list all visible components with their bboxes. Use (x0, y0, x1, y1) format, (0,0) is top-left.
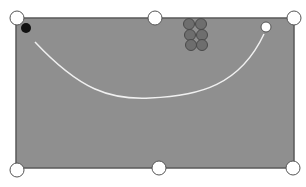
rack-ball (186, 40, 197, 51)
black-ball (21, 23, 31, 33)
billiards-table-diagram (0, 0, 306, 187)
pocket-top-left (10, 11, 24, 25)
rack-ball (197, 30, 208, 41)
rack-ball (184, 19, 195, 30)
pocket-bottom-right (286, 161, 300, 175)
pocket-top-right-pocket (287, 11, 301, 25)
table-felt (16, 18, 294, 168)
cue-ball (261, 22, 271, 32)
pocket-bottom-left (10, 163, 24, 177)
rack-ball (185, 30, 196, 41)
rack-ball (196, 19, 207, 30)
pocket-bottom-middle (152, 161, 166, 175)
pocket-top-middle (148, 11, 162, 25)
rack-ball (197, 40, 208, 51)
